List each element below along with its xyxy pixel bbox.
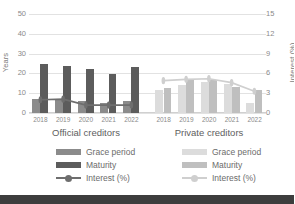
x-tick-label: 2022 — [243, 116, 267, 123]
x-tick-label: 2021 — [97, 116, 121, 123]
bar-maturity — [164, 88, 172, 113]
y-tick-left: 20 — [4, 69, 26, 77]
y-tick-left: 50 — [4, 10, 26, 18]
y-tick-left: 0 — [4, 109, 26, 117]
chart-figure: Years Interest (%) 01020304050 03691215 … — [0, 0, 294, 204]
bar-group — [55, 14, 71, 113]
grace-period-swatch-icon — [56, 149, 81, 155]
legend-official: Grace period Maturity Interest (%) — [56, 145, 135, 184]
bar-maturity — [232, 87, 240, 113]
bar-group — [246, 14, 262, 113]
legend-item-interest-private: Interest (%) — [182, 171, 261, 184]
maturity-swatch-icon — [56, 162, 81, 168]
bar-grace-period — [201, 82, 209, 113]
panel-title-official: Official creditors — [29, 127, 143, 138]
gridline — [29, 113, 266, 114]
legend-label-interest: Interest (%) — [86, 173, 130, 183]
panel-title-private: Private creditors — [152, 127, 266, 138]
grace-period-swatch-icon — [182, 149, 207, 155]
bottom-strip — [0, 195, 294, 204]
y-tick-right: 9 — [266, 50, 288, 58]
y-tick-right: 6 — [266, 69, 288, 77]
x-tick-label: 2019 — [174, 116, 198, 123]
bar-group — [224, 14, 240, 113]
bar-grace-period — [32, 99, 40, 113]
bar-grace-period — [100, 103, 108, 113]
legend-label-maturity: Maturity — [212, 160, 242, 170]
y-axis-left-ticks: 01020304050 — [4, 0, 26, 204]
bar-grace-period — [224, 84, 232, 114]
bar-group — [201, 14, 217, 113]
bar-grace-period — [178, 85, 186, 113]
y-tick-right: 12 — [266, 30, 288, 38]
x-tick-label: 2022 — [119, 116, 143, 123]
x-tick-label: 2021 — [220, 116, 244, 123]
bar-group — [100, 14, 116, 113]
bar-grace-period — [123, 101, 131, 113]
bar-grace-period — [155, 90, 163, 113]
bar-group — [178, 14, 194, 113]
legend-label-grace: Grace period — [212, 147, 261, 157]
y-tick-left: 40 — [4, 30, 26, 38]
y-tick-left: 10 — [4, 89, 26, 97]
legend-item-interest-official: Interest (%) — [56, 171, 135, 184]
bar-maturity — [131, 67, 139, 113]
bar-maturity — [186, 80, 194, 113]
bar-maturity — [255, 90, 263, 113]
bar-maturity — [63, 66, 71, 113]
bar-group — [78, 14, 94, 113]
bar-group — [123, 14, 139, 113]
legend-private: Grace period Maturity Interest (%) — [182, 145, 261, 184]
x-tick-label: 2019 — [51, 116, 75, 123]
y-axis-right-ticks: 03691215 — [266, 0, 288, 204]
legend-item-grace-private: Grace period — [182, 145, 261, 158]
bar-maturity — [40, 64, 48, 114]
bar-maturity — [209, 80, 217, 113]
x-tick-label: 2018 — [152, 116, 176, 123]
y-tick-right: 0 — [266, 109, 288, 117]
legend-item-maturity-official: Maturity — [56, 158, 135, 171]
x-tick-label: 2020 — [74, 116, 98, 123]
x-tick-label: 2018 — [28, 116, 52, 123]
maturity-swatch-icon — [182, 162, 207, 168]
x-tick-label: 2020 — [197, 116, 221, 123]
interest-line-swatch-icon — [182, 174, 207, 181]
panel-official-creditors — [29, 14, 143, 113]
bar-grace-period — [78, 101, 86, 113]
bar-grace-period — [246, 103, 254, 113]
legend-item-grace-official: Grace period — [56, 145, 135, 158]
bar-maturity — [86, 69, 94, 113]
legend-label-interest: Interest (%) — [212, 173, 256, 183]
bar-group — [155, 14, 171, 113]
legend-label-maturity: Maturity — [86, 160, 116, 170]
interest-line-swatch-icon — [56, 174, 81, 181]
bar-grace-period — [55, 100, 63, 113]
panel-private-creditors — [152, 14, 266, 113]
y-tick-left: 30 — [4, 50, 26, 58]
bar-maturity — [109, 74, 117, 113]
y-tick-right: 3 — [266, 89, 288, 97]
plot-area — [29, 14, 266, 113]
y-tick-right: 15 — [266, 10, 288, 18]
legend-label-grace: Grace period — [86, 147, 135, 157]
bar-group — [32, 14, 48, 113]
y-axis-right-title: Interest (%) — [288, 40, 295, 86]
legend-item-maturity-private: Maturity — [182, 158, 261, 171]
